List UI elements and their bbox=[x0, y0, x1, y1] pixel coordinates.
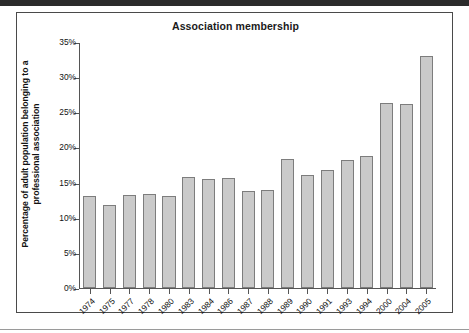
bar-slot bbox=[298, 43, 318, 288]
x-tick-label-1986: 1986 bbox=[215, 296, 235, 316]
x-tick-mark bbox=[149, 289, 150, 294]
bar-slot bbox=[199, 43, 219, 288]
x-tick-label-1975: 1975 bbox=[96, 296, 116, 316]
x-tick-label-1984: 1984 bbox=[195, 296, 215, 316]
x-axis-ticks: 1974197519771978198019831984198619871988… bbox=[80, 289, 436, 294]
bar-1980[interactable] bbox=[162, 196, 175, 288]
x-tick-label-1990: 1990 bbox=[294, 296, 314, 316]
bar-slot bbox=[377, 43, 397, 288]
x-tick-slot: 1991 bbox=[317, 289, 337, 294]
chart-card: Association membership Percentage of adu… bbox=[16, 12, 453, 313]
y-tick-label: 5% bbox=[64, 248, 76, 258]
bar-1991[interactable] bbox=[321, 170, 334, 288]
y-tick-label: 35% bbox=[59, 37, 76, 47]
bar-slot bbox=[100, 43, 120, 288]
bar-slot bbox=[139, 43, 159, 288]
bar-1974[interactable] bbox=[83, 196, 96, 288]
bar-slot bbox=[179, 43, 199, 288]
x-tick-mark bbox=[307, 289, 308, 294]
top-band-divider bbox=[0, 0, 469, 6]
x-tick-slot: 1994 bbox=[357, 289, 377, 294]
x-tick-slot: 1980 bbox=[159, 289, 179, 294]
x-tick-slot: 1983 bbox=[179, 289, 199, 294]
bar-1975[interactable] bbox=[103, 205, 116, 288]
x-tick-label-2000: 2000 bbox=[373, 296, 393, 316]
x-tick-mark bbox=[209, 289, 210, 294]
x-tick-label-2004: 2004 bbox=[393, 296, 413, 316]
bar-2000[interactable] bbox=[380, 103, 393, 288]
x-tick-label-1974: 1974 bbox=[77, 296, 97, 316]
y-tick-label: 15% bbox=[59, 178, 76, 188]
bar-1994[interactable] bbox=[360, 156, 373, 288]
x-tick-label-2005: 2005 bbox=[413, 296, 433, 316]
x-tick-label-1994: 1994 bbox=[354, 296, 374, 316]
y-tick-label: 0% bbox=[64, 283, 76, 293]
x-tick-label-1991: 1991 bbox=[314, 296, 334, 316]
x-tick-mark bbox=[169, 289, 170, 294]
bar-slot bbox=[218, 43, 238, 288]
x-tick-mark bbox=[347, 289, 348, 294]
x-tick-mark bbox=[189, 289, 190, 294]
y-tick-label: 10% bbox=[59, 213, 76, 223]
x-tick-slot: 1990 bbox=[298, 289, 318, 294]
x-tick-slot: 1987 bbox=[238, 289, 258, 294]
x-tick-mark bbox=[110, 289, 111, 294]
bar-1989[interactable] bbox=[281, 159, 294, 289]
bar-slot bbox=[258, 43, 278, 288]
bar-1987[interactable] bbox=[242, 191, 255, 288]
bar-slot bbox=[416, 43, 436, 288]
x-tick-mark bbox=[288, 289, 289, 294]
x-tick-mark bbox=[268, 289, 269, 294]
x-tick-slot: 1988 bbox=[258, 289, 278, 294]
x-tick-mark bbox=[367, 289, 368, 294]
x-tick-slot: 1989 bbox=[278, 289, 298, 294]
x-tick-mark bbox=[426, 289, 427, 294]
bar-2005[interactable] bbox=[420, 56, 433, 288]
bar-series bbox=[80, 43, 436, 288]
x-tick-mark bbox=[406, 289, 407, 294]
x-tick-label-1989: 1989 bbox=[275, 296, 295, 316]
x-tick-label-1977: 1977 bbox=[116, 296, 136, 316]
x-tick-label-1987: 1987 bbox=[235, 296, 255, 316]
bar-1993[interactable] bbox=[341, 160, 354, 288]
x-tick-label-1983: 1983 bbox=[176, 296, 196, 316]
x-tick-mark bbox=[90, 289, 91, 294]
x-tick-mark bbox=[327, 289, 328, 294]
x-tick-slot: 1978 bbox=[139, 289, 159, 294]
bottom-rule bbox=[0, 329, 469, 330]
bar-slot bbox=[357, 43, 377, 288]
x-tick-mark bbox=[129, 289, 130, 294]
bar-2004[interactable] bbox=[400, 104, 413, 288]
bar-slot bbox=[337, 43, 357, 288]
x-tick-mark bbox=[248, 289, 249, 294]
x-tick-slot: 1993 bbox=[337, 289, 357, 294]
x-tick-slot: 1974 bbox=[80, 289, 100, 294]
bar-1983[interactable] bbox=[182, 177, 195, 288]
y-tick-label: 25% bbox=[59, 107, 76, 117]
bar-1977[interactable] bbox=[123, 195, 136, 288]
bar-1978[interactable] bbox=[143, 194, 156, 288]
bar-1988[interactable] bbox=[261, 190, 274, 288]
x-tick-label-1993: 1993 bbox=[334, 296, 354, 316]
bar-slot bbox=[397, 43, 417, 288]
x-tick-label-1988: 1988 bbox=[255, 296, 275, 316]
bar-slot bbox=[120, 43, 140, 288]
x-tick-slot: 1977 bbox=[120, 289, 140, 294]
x-tick-slot: 2005 bbox=[416, 289, 436, 294]
y-axis-title: Percentage of adult population belonging… bbox=[20, 54, 42, 254]
bar-slot bbox=[278, 43, 298, 288]
y-tick-label: 30% bbox=[59, 72, 76, 82]
bar-1984[interactable] bbox=[202, 179, 215, 288]
bar-1986[interactable] bbox=[222, 178, 235, 288]
plot-area: 0%5%10%15%20%25%30%35% 19741975197719781… bbox=[79, 43, 436, 289]
x-tick-label-1978: 1978 bbox=[136, 296, 156, 316]
x-tick-slot: 1986 bbox=[218, 289, 238, 294]
chart-figure: Association membership Percentage of adu… bbox=[0, 0, 469, 333]
x-tick-mark bbox=[387, 289, 388, 294]
bar-slot bbox=[159, 43, 179, 288]
y-tick-label: 20% bbox=[59, 142, 76, 152]
x-tick-label-1980: 1980 bbox=[156, 296, 176, 316]
x-tick-slot: 1984 bbox=[199, 289, 219, 294]
bar-1990[interactable] bbox=[301, 175, 314, 288]
bar-slot bbox=[317, 43, 337, 288]
